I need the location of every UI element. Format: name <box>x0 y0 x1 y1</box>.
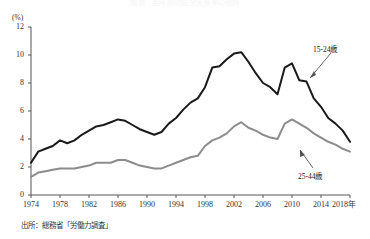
plot-area <box>0 0 370 239</box>
series-label-25-44: 25-44歳 <box>298 170 323 181</box>
series-label-15-24: 15-24歳 <box>313 43 338 54</box>
line-series-15-24 <box>31 52 350 163</box>
line-series-25-44 <box>31 119 350 176</box>
chart-figure: 図表 若年層の完全失業率の推移 (%) 12 10 8 6 4 2 0 1974… <box>0 0 370 239</box>
annotation-arrows <box>300 53 331 168</box>
source-note: 出所：総務省「労働力調査」 <box>21 219 112 230</box>
